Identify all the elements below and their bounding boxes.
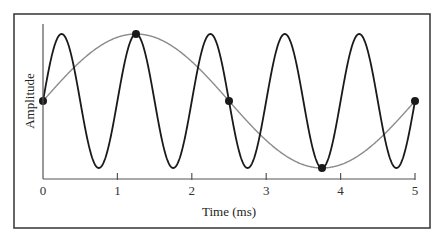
sample-point [132, 30, 140, 38]
x-tick-label: 1 [114, 183, 121, 198]
x-tick-label: 2 [189, 183, 196, 198]
x-axis-ticks: 012345 [40, 173, 419, 198]
sample-point [318, 164, 326, 172]
sample-points [39, 30, 419, 172]
x-axis-title: Time (ms) [202, 204, 256, 219]
y-axis-title: Amplitude [22, 73, 37, 129]
x-tick-label: 4 [337, 183, 344, 198]
sample-point [411, 97, 419, 105]
plot-area [39, 30, 419, 172]
x-tick-label: 0 [40, 183, 47, 198]
x-tick-label: 3 [263, 183, 270, 198]
x-tick-label: 5 [412, 183, 419, 198]
sample-point [225, 97, 233, 105]
aliasing-chart: 012345 Time (ms) Amplitude [0, 0, 444, 240]
chart-frame [14, 14, 430, 228]
